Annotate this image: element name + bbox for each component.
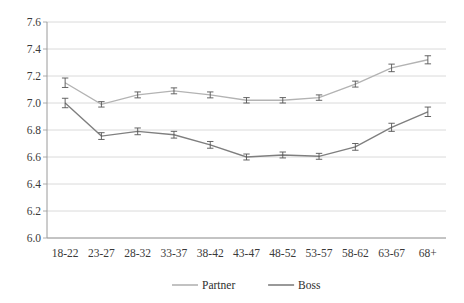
y-tick-label: 6.4: [27, 178, 42, 190]
x-tick-label: 33-37: [161, 247, 188, 259]
y-tick-label: 6.6: [27, 151, 42, 163]
x-tick-label: 43-47: [233, 247, 260, 259]
error-bar: [425, 107, 431, 116]
chart-legend: PartnerBoss: [172, 279, 321, 291]
legend-label-partner: Partner: [202, 279, 235, 291]
error-bar: [352, 81, 358, 87]
x-tick-label: 68+: [419, 247, 437, 259]
x-tick-label: 18-22: [52, 247, 79, 259]
line-chart: 6.06.26.46.66.87.07.27.47.6 18-2223-2728…: [0, 0, 464, 303]
y-tick-label: 6.8: [27, 124, 42, 136]
x-tick-label: 38-42: [197, 247, 224, 259]
y-axis-tick-labels: 6.06.26.46.66.87.07.27.47.6: [27, 16, 47, 244]
legend-label-boss: Boss: [298, 279, 321, 291]
y-tick-label: 7.2: [27, 70, 42, 82]
series-partner: [62, 56, 431, 107]
x-tick-label: 28-32: [124, 247, 151, 259]
data-series-layer: [62, 56, 431, 160]
error-bar: [62, 78, 68, 87]
series-boss: [62, 98, 431, 160]
x-tick-label: 23-27: [88, 247, 115, 259]
y-tick-label: 7.0: [27, 97, 42, 109]
y-tick-label: 7.6: [27, 16, 42, 28]
y-tick-label: 6.0: [27, 232, 42, 244]
x-axis-tick-labels: 18-2223-2728-3233-3738-4243-4748-5253-57…: [52, 247, 437, 259]
x-tick-label: 63-67: [378, 247, 405, 259]
x-tick-label: 58-62: [342, 247, 369, 259]
y-tick-label: 7.4: [27, 43, 42, 55]
x-tick-label: 48-52: [269, 247, 296, 259]
y-tick-label: 6.2: [27, 205, 42, 217]
chart-canvas: 6.06.26.46.66.87.07.27.47.6 18-2223-2728…: [0, 0, 464, 303]
x-tick-label: 53-57: [306, 247, 333, 259]
